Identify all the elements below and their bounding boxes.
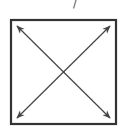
label-fragment: / <box>73 0 78 10</box>
square-with-crossed-arrows-diagram: / <box>0 0 131 129</box>
